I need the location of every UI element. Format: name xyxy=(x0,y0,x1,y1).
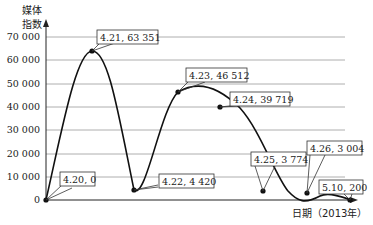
svg-text:30 000: 30 000 xyxy=(7,124,40,135)
svg-text:20 000: 20 000 xyxy=(7,148,40,159)
svg-text:5.10, 200: 5.10, 200 xyxy=(322,182,367,193)
svg-text:4.24, 39 719: 4.24, 39 719 xyxy=(233,94,293,105)
y-axis-label-line1: 媒体 xyxy=(22,5,42,16)
svg-text:70 000: 70 000 xyxy=(7,31,40,42)
callout-4-23: 4.23, 46 512 xyxy=(186,68,249,82)
callout-4-21: 4.21, 63 351 xyxy=(97,30,160,44)
callout-4-26: 4.26, 3 004 xyxy=(307,141,364,155)
y-axis-label-line2: 指数 xyxy=(22,18,42,30)
y-tick-labels: 0 10 000 20 000 30 000 40 000 50 000 60 … xyxy=(7,31,40,205)
svg-text:40 000: 40 000 xyxy=(7,101,40,112)
callout-5-10: 5.10, 200 xyxy=(319,180,367,194)
media-index-chart: 0 10 000 20 000 30 000 40 000 50 000 60 … xyxy=(0,0,373,225)
svg-text:4.21, 63 351: 4.21, 63 351 xyxy=(100,32,160,43)
svg-text:10 000: 10 000 xyxy=(7,171,40,182)
y-axis-arrow-icon xyxy=(43,19,49,27)
callout-4-25: 4.25, 3 774 xyxy=(251,152,308,166)
svg-text:50 000: 50 000 xyxy=(7,78,40,89)
svg-text:4.22, 4 420: 4.22, 4 420 xyxy=(162,176,216,187)
svg-text:4.26, 3 004: 4.26, 3 004 xyxy=(310,143,364,154)
svg-text:4.25, 3 774: 4.25, 3 774 xyxy=(254,154,308,165)
x-axis-label: 日期（2013年） xyxy=(292,207,367,219)
callout-4-22: 4.22, 4 420 xyxy=(159,174,216,188)
callout-4-24: 4.24, 39 719 xyxy=(230,92,293,106)
callout-4-20: 4.20, 0 xyxy=(60,172,96,186)
svg-text:0: 0 xyxy=(34,194,40,205)
svg-text:4.23, 46 512: 4.23, 46 512 xyxy=(189,70,249,81)
svg-text:4.20, 0: 4.20, 0 xyxy=(63,174,96,185)
svg-text:60 000: 60 000 xyxy=(7,54,40,65)
